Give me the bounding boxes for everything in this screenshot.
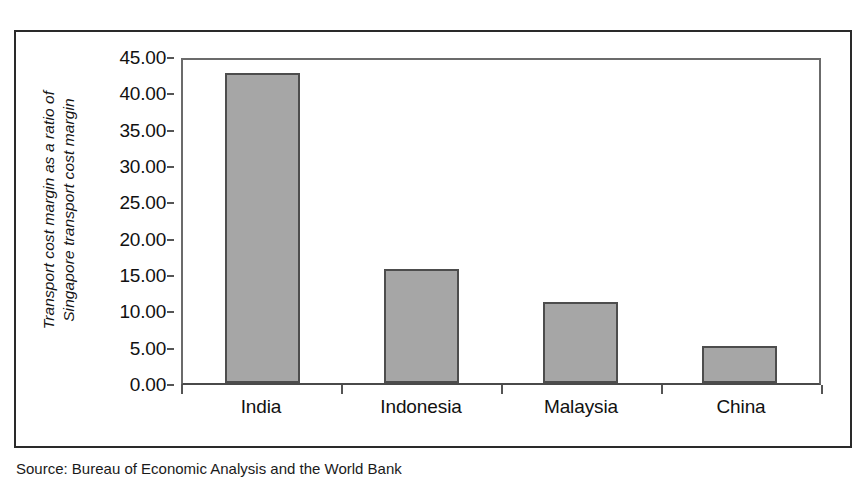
y-axis-tick-mark [167,348,174,350]
bar-indonesia [384,269,459,383]
x-axis-tick-mark [501,385,503,394]
x-axis-label-china: China [661,396,821,426]
y-axis-tick-mark [167,239,174,241]
y-axis-title-line-2: Singapore transport cost margin [59,98,79,322]
y-axis-tick-label: 20.00 [119,229,166,251]
y-axis-tick-mark [167,166,174,168]
y-axis-ticks: 45.0040.0035.0030.0025.0020.0015.0010.00… [96,48,174,396]
bar-slot [342,60,501,383]
x-axis-tick-mark [181,385,183,394]
y-axis-tick-label: 30.00 [119,156,166,178]
x-axis-labels: IndiaIndonesiaMalaysiaChina [181,396,821,426]
y-axis-tick-label: 35.00 [119,120,166,142]
bar-slot [501,60,660,383]
y-axis-tick-label: 15.00 [119,265,166,287]
x-axis-tick-mark [661,385,663,394]
bar-slot [183,60,342,383]
x-axis-ticks [181,385,821,395]
x-axis-tick-mark [821,385,823,394]
plot-area [181,58,821,385]
y-axis-tick-label: 40.00 [119,83,166,105]
bar-slot [660,60,819,383]
y-axis-tick-label: 5.00 [130,338,166,360]
bar-china [702,346,777,383]
y-axis-tick-mark [167,384,174,386]
bar-india [225,73,300,383]
y-axis-tick-mark [167,93,174,95]
y-axis-tick-mark [167,130,174,132]
x-axis-label-malaysia: Malaysia [501,396,661,426]
y-axis-tick-mark [167,275,174,277]
y-axis-tick-mark [167,57,174,59]
y-axis-tick-label: 0.00 [130,374,166,396]
y-axis-title: Transport cost margin as a ratio of Sing… [20,40,98,380]
y-axis-title-line-1: Transport cost margin as a ratio of [39,91,59,329]
x-axis-tick-mark [341,385,343,394]
bars-layer [183,60,819,383]
y-axis-tick-mark [167,311,174,313]
y-axis-tick-label: 25.00 [119,192,166,214]
y-axis-tick-label: 45.00 [119,47,166,69]
y-axis-tick-mark [167,202,174,204]
x-axis-label-indonesia: Indonesia [341,396,501,426]
x-axis-label-india: India [181,396,341,426]
figure-caption: Source: Bureau of Economic Analysis and … [16,460,402,477]
bar-malaysia [543,302,618,383]
y-axis-tick-label: 10.00 [119,301,166,323]
